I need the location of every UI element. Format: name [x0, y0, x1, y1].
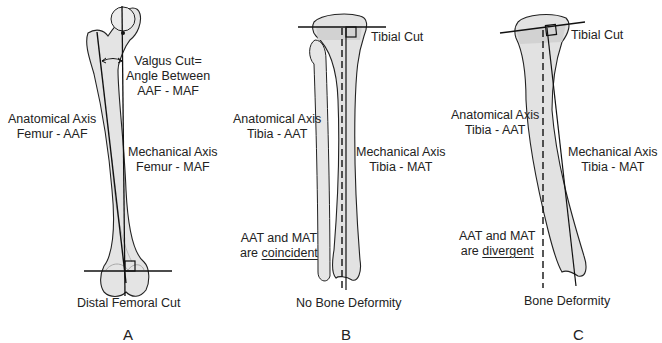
label-line: Anatomical Axis — [8, 112, 96, 127]
label-line: Tibia - MAT — [356, 160, 446, 175]
tibial-cut-label: Tibial Cut — [371, 30, 423, 45]
label-line: Valgus Cut= — [126, 54, 210, 69]
label-line: Mechanical Axis — [568, 145, 658, 160]
mat-label: Mechanical Axis Tibia - MAT — [356, 145, 446, 175]
label-line: are divergent — [459, 244, 535, 259]
label-prefix: are — [461, 244, 483, 258]
label-prefix: are — [240, 246, 262, 260]
label-line: AAT and MAT — [459, 229, 535, 244]
divergent-label: AAT and MAT are divergent — [459, 229, 535, 259]
label-line: Femur - MAF — [128, 160, 218, 175]
distal-femoral-cut-label: Distal Femoral Cut — [77, 296, 181, 311]
label-line: Mechanical Axis — [356, 145, 446, 160]
maf-label: Mechanical Axis Femur - MAF — [128, 145, 218, 175]
label-line: Femur - AAF — [8, 127, 96, 142]
label-line: Tibia - AAT — [451, 123, 539, 138]
aaf-label: Anatomical Axis Femur - AAF — [8, 112, 96, 142]
mat-label: Mechanical Axis Tibia - MAT — [568, 145, 658, 175]
no-bone-deformity-caption: No Bone Deformity — [296, 296, 402, 311]
label-line: Tibia - MAT — [568, 160, 658, 175]
bone-deformity-caption: Bone Deformity — [524, 294, 610, 309]
label-line: Angle Between — [126, 69, 210, 84]
label-line: Anatomical Axis — [451, 108, 539, 123]
coincident-label: AAT and MAT are coincident — [240, 231, 318, 261]
diagram-artwork — [0, 0, 662, 343]
femoral-head — [111, 7, 135, 31]
aat-label: Anatomical Axis Tibia - AAT — [451, 108, 539, 138]
relation-word: coincident — [262, 246, 318, 260]
label-line: Anatomical Axis — [233, 112, 321, 127]
label-line: are coincident — [240, 246, 318, 261]
label-line: Tibia - AAT — [233, 127, 321, 142]
relation-word: divergent — [482, 244, 533, 258]
label-line: AAT and MAT — [240, 231, 318, 246]
panel-letter-b: B — [341, 326, 351, 343]
aat-label: Anatomical Axis Tibia - AAT — [233, 112, 321, 142]
panel-letter-c: C — [573, 326, 584, 343]
panel-letter-a: A — [123, 326, 133, 343]
label-line: Mechanical Axis — [128, 145, 218, 160]
tibial-cut-label: Tibial Cut — [571, 28, 623, 43]
label-line: AAF - MAF — [126, 84, 210, 99]
valgus-cut-label: Valgus Cut= Angle Between AAF - MAF — [126, 54, 210, 99]
